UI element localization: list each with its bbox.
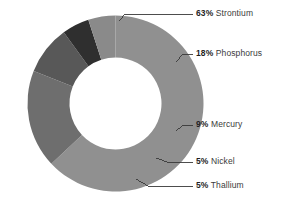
callout-value-strontium: 63 [196,8,206,18]
callout-label-strontium: Strontium [216,8,253,18]
callout-thallium: 5% Thallium [196,181,244,190]
donut-slices [28,16,204,192]
percent-sign-icon: % [206,8,214,18]
callout-phosphorus: 18% Phosphorus [196,49,262,58]
percent-sign-icon: % [206,48,214,58]
percent-sign-icon: % [201,119,209,129]
callout-nickel: 5% Nickel [196,157,235,166]
callout-strontium: 63% Strontium [196,9,253,18]
callout-label-nickel: Nickel [211,156,235,166]
callout-label-thallium: Thallium [211,180,244,190]
callout-label-phosphorus: Phosphorus [216,48,262,58]
donut-chart: 63% Strontium 18% Phosphorus 9% Mercury … [0,0,304,201]
percent-sign-icon: % [201,156,209,166]
callout-label-mercury: Mercury [211,119,242,129]
donut-chart-graphic [0,0,304,201]
percent-sign-icon: % [201,180,209,190]
callout-mercury: 9% Mercury [196,120,242,129]
callout-value-phosphorus: 18 [196,48,206,58]
